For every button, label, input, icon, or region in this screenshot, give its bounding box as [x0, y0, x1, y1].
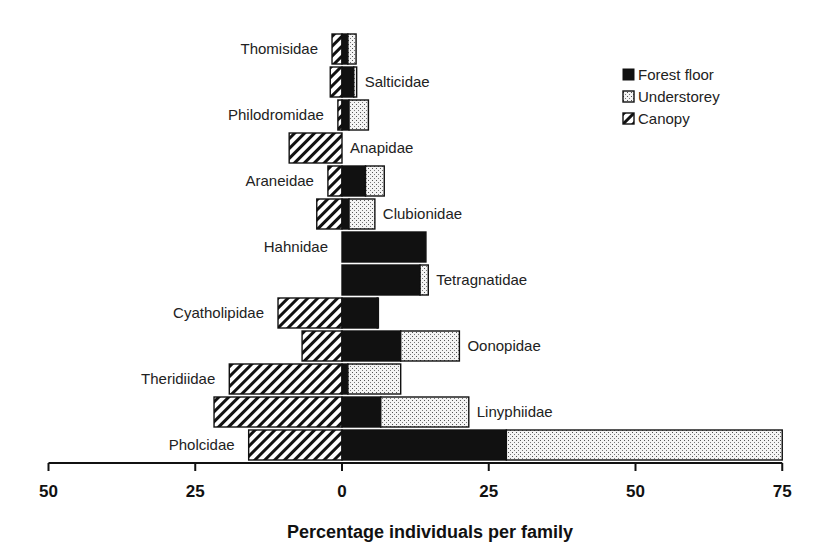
svg-text:Understorey: Understorey	[638, 88, 720, 105]
bar-understorey	[506, 430, 782, 460]
x-tick-label: 25	[479, 482, 498, 501]
bar-understorey	[348, 364, 401, 394]
x-axis: 50250255075	[39, 463, 792, 501]
x-axis-label: Percentage individuals per family	[287, 522, 573, 542]
category-label: Cyatholipidae	[173, 304, 264, 321]
x-tick-label: 0	[337, 482, 346, 501]
bar-canopy	[249, 430, 342, 460]
legend-item-canopy: Canopy	[623, 110, 690, 127]
x-tick-label: 50	[39, 482, 58, 501]
category-label: Philodromidae	[228, 106, 324, 123]
bar-understorey	[420, 265, 428, 295]
legend: Forest floor Understorey Canopy	[623, 66, 720, 127]
bar-understorey	[349, 199, 375, 229]
bar-forest-floor	[342, 232, 426, 262]
legend-item-understorey: Understorey	[623, 88, 720, 105]
category-label: Theridiidae	[141, 370, 215, 387]
bar-understorey	[348, 34, 356, 64]
bar-forest-floor	[342, 298, 377, 328]
legend-swatch-hatch-icon	[623, 113, 634, 124]
category-label: Araneidae	[246, 172, 314, 189]
category-label: Anapidae	[350, 139, 413, 156]
bar-understorey	[377, 298, 378, 328]
category-label: Hahnidae	[264, 238, 328, 255]
bar-canopy	[302, 331, 342, 361]
x-tick-label: 50	[626, 482, 645, 501]
legend-swatch-stipple-icon	[623, 91, 634, 102]
category-label: Linyphiidae	[477, 403, 553, 420]
bar-canopy	[328, 166, 342, 196]
x-tick-label: 75	[773, 482, 792, 501]
bar-understorey	[365, 166, 384, 196]
category-label: Tetragnatidae	[436, 271, 527, 288]
svg-text:Forest floor: Forest floor	[638, 66, 714, 83]
category-label: Pholcidae	[169, 436, 235, 453]
bar-canopy	[214, 397, 342, 427]
bar-understorey	[381, 397, 469, 427]
bar-forest-floor	[342, 430, 506, 460]
bar-understorey	[401, 331, 460, 361]
bar-forest-floor	[342, 199, 349, 229]
bar-understorey	[349, 100, 368, 130]
bar-forest-floor	[342, 364, 348, 394]
bar-canopy	[289, 133, 342, 163]
svg-text:Canopy: Canopy	[638, 110, 690, 127]
bar-forest-floor	[342, 166, 365, 196]
bar-forest-floor	[342, 67, 354, 97]
bar-understorey	[354, 67, 357, 97]
bar-forest-floor	[342, 265, 420, 295]
bar-forest-floor	[342, 100, 349, 130]
bar-canopy	[330, 67, 342, 97]
category-label: Salticidae	[365, 73, 430, 90]
x-tick-label: 25	[186, 482, 205, 501]
stacked-diverging-bar-chart: ThomisidaeSalticidaePhilodromidaeAnapida…	[0, 0, 826, 555]
bar-canopy	[317, 199, 342, 229]
bar-canopy	[278, 298, 342, 328]
category-label: Clubionidae	[383, 205, 462, 222]
legend-item-forest-floor: Forest floor	[623, 66, 714, 83]
bar-forest-floor	[342, 34, 348, 64]
bar-forest-floor	[342, 331, 401, 361]
bar-canopy	[229, 364, 342, 394]
bar-forest-floor	[342, 397, 381, 427]
legend-swatch-solid-icon	[623, 69, 634, 80]
bar-canopy	[332, 34, 342, 64]
category-label: Thomisidae	[240, 40, 318, 57]
category-label: Oonopidae	[467, 337, 540, 354]
